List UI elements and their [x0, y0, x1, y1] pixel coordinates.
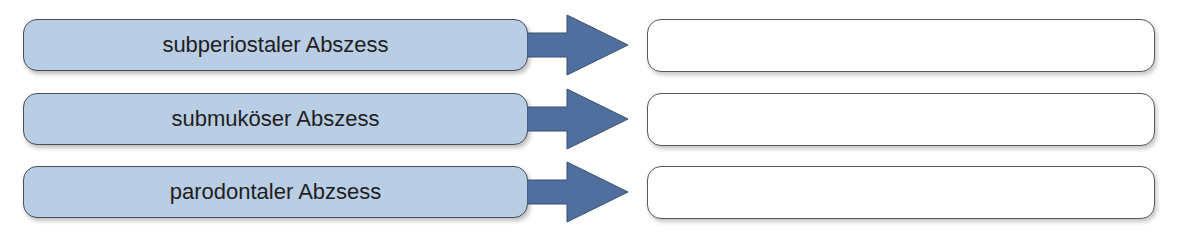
- term-box: parodontaler Abzsess: [23, 166, 528, 218]
- term-label: subperiostaler Abszess: [162, 32, 388, 58]
- term-box: subperiostaler Abszess: [23, 19, 528, 71]
- arrow-right-icon: [527, 13, 631, 77]
- term-box: submuköser Abszess: [23, 93, 528, 145]
- term-label: parodontaler Abzsess: [170, 179, 382, 205]
- term-label: submuköser Abszess: [172, 106, 380, 132]
- row-1: subperiostaler Abszess: [0, 19, 1180, 75]
- answer-box[interactable]: [647, 166, 1155, 219]
- arrow-right-icon: [527, 160, 631, 224]
- answer-box[interactable]: [647, 19, 1155, 72]
- arrow-right-icon: [527, 87, 631, 151]
- row-3: parodontaler Abzsess: [0, 166, 1180, 222]
- row-2: submuköser Abszess: [0, 93, 1180, 149]
- answer-box[interactable]: [647, 93, 1155, 146]
